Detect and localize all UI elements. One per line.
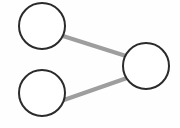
edge-layer — [61, 36, 127, 101]
graph-node-right[interactable] — [123, 43, 169, 89]
node-layer — [19, 3, 169, 116]
diagram-canvas — [0, 0, 180, 128]
graph-node-bottom-left[interactable] — [19, 70, 65, 116]
graph-edge-n1-n3[interactable] — [63, 36, 126, 56]
graph-edge-n2-n3[interactable] — [61, 78, 127, 101]
graph-svg — [0, 0, 180, 128]
graph-node-top-left[interactable] — [19, 3, 65, 49]
